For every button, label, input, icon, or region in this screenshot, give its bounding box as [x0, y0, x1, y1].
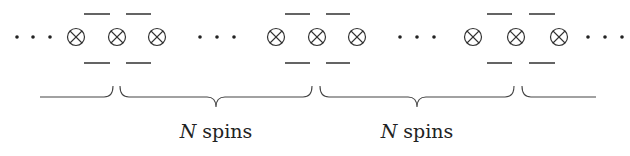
ellipsis-dot [432, 35, 436, 39]
ellipsis-dot [15, 35, 19, 39]
ellipsis-dot [198, 35, 202, 39]
ellipsis-dot [215, 35, 219, 39]
block-label-1-text: spins [196, 120, 252, 142]
brace-block-1 [120, 86, 312, 107]
ellipsis-dot [31, 35, 35, 39]
brace-partial-right [522, 86, 596, 97]
ellipsis-dot [415, 35, 419, 39]
spin-chain-diagram [0, 0, 630, 156]
ellipsis-dot [620, 35, 624, 39]
ellipsis-dot [586, 35, 590, 39]
block-label-2-text: spins [397, 120, 453, 142]
brace-block-2 [320, 86, 514, 107]
ellipsis-dot [603, 35, 607, 39]
block-label-2-variable: N [381, 120, 398, 142]
brace-partial-left [40, 86, 113, 97]
block-label-2: N spins [381, 120, 454, 142]
block-label-1-variable: N [180, 120, 197, 142]
ellipsis-dot [232, 35, 236, 39]
block-label-1: N spins [180, 120, 253, 142]
ellipsis-dot [398, 35, 402, 39]
ellipsis-dot [48, 35, 52, 39]
